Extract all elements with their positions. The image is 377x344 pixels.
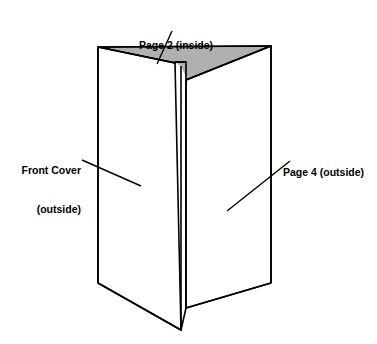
- diagram-canvas: Page 2 (inside) Front Cover (outside) Pa…: [0, 0, 377, 344]
- label-front-cover-line-1: Front Cover: [0, 164, 81, 177]
- label-page-4-outside: Page 4 (outside): [283, 140, 364, 205]
- label-page-4-outside-line-1: Page 4 (outside): [283, 166, 364, 179]
- left-panel-front-cover: [98, 47, 181, 330]
- label-front-cover-outside: Front Cover (outside): [0, 138, 81, 242]
- label-front-cover-line-2: (outside): [0, 203, 81, 216]
- label-page-2-inside-line-1: Page 2 (inside): [139, 39, 213, 52]
- right-panel-page4: [186, 46, 271, 308]
- label-page-2-inside: Page 2 (inside): [139, 13, 213, 78]
